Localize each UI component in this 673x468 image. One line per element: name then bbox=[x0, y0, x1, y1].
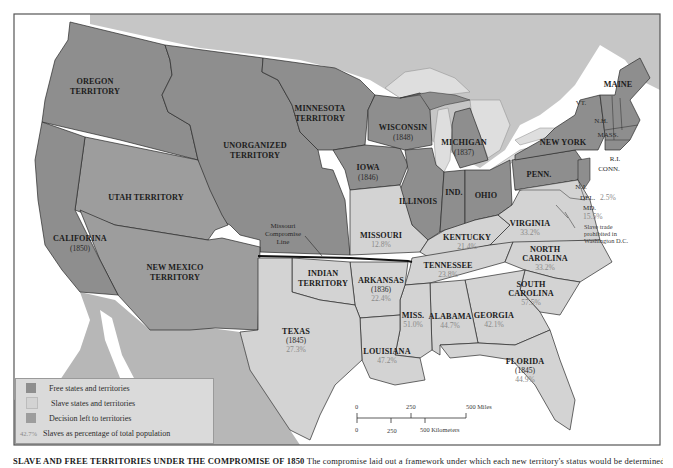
missouri-line-label: Missouri bbox=[271, 222, 296, 230]
svg-text:TERRITORY: TERRITORY bbox=[298, 279, 348, 288]
label-maryland: MD. bbox=[583, 204, 596, 212]
label-ohio: OHIO bbox=[475, 191, 498, 200]
svg-text:500 Miles: 500 Miles bbox=[466, 403, 492, 410]
svg-text:0: 0 bbox=[355, 426, 358, 433]
label-conn: CONN. bbox=[598, 165, 620, 173]
florida-state bbox=[440, 330, 575, 430]
svg-text:(1848): (1848) bbox=[393, 133, 414, 142]
label-ri: R.I. bbox=[610, 155, 621, 163]
label-penn: PENN. bbox=[527, 170, 552, 179]
label-oregon: OREGON bbox=[77, 77, 114, 86]
label-missouri: MISSOURI bbox=[360, 231, 402, 240]
legend-item-decision: Decision left to territories bbox=[16, 411, 131, 425]
label-iowa: IOWA bbox=[356, 163, 379, 172]
label-illinois: ILLINOIS bbox=[399, 197, 437, 206]
label-maine: MAINE bbox=[604, 80, 633, 89]
svg-text:Compromise: Compromise bbox=[265, 230, 301, 238]
svg-text:22.4%: 22.4% bbox=[371, 294, 391, 303]
label-louisiana: LOUISIANA bbox=[363, 347, 410, 356]
svg-text:(1845): (1845) bbox=[515, 366, 536, 375]
svg-text:prohibited in: prohibited in bbox=[584, 230, 618, 237]
label-mass: MASS. bbox=[598, 131, 619, 139]
svg-text:15.5%: 15.5% bbox=[583, 212, 603, 221]
label-georgia: GEORGIA bbox=[474, 311, 514, 320]
svg-text:(1846): (1846) bbox=[358, 173, 379, 182]
label-unorganized: UNORGANIZED bbox=[223, 141, 286, 150]
svg-text:33.2%: 33.2% bbox=[520, 228, 540, 237]
svg-text:0: 0 bbox=[355, 403, 358, 410]
label-michigan: MICHIGAN bbox=[441, 138, 486, 147]
label-indiana: IND. bbox=[445, 188, 462, 197]
label-minnesota: MINNESOTA bbox=[295, 104, 346, 113]
label-california: CALIFORINA bbox=[53, 234, 107, 243]
label-nh: N.H. bbox=[594, 117, 608, 125]
svg-text:47.2%: 47.2% bbox=[377, 356, 397, 365]
svg-text:33.2%: 33.2% bbox=[535, 263, 555, 272]
svg-text:Washington D.C.: Washington D.C. bbox=[584, 237, 628, 244]
scale-bar: 0 250 500 Miles 0 250 500 Kilometers bbox=[355, 403, 492, 434]
label-wisconsin: WISCONSIN bbox=[379, 123, 428, 132]
svg-text:21.4%: 21.4% bbox=[457, 242, 477, 251]
svg-text:(1850): (1850) bbox=[70, 244, 91, 253]
percent-sample: 42.7% bbox=[20, 430, 42, 437]
dc-note: Slave trade bbox=[584, 223, 613, 230]
decision-swatch bbox=[26, 413, 36, 423]
svg-text:12.8%: 12.8% bbox=[371, 240, 391, 249]
label-north-carolina: NORTH bbox=[530, 245, 561, 254]
label-vermont: VT. bbox=[576, 99, 587, 107]
svg-text:(1837): (1837) bbox=[454, 148, 475, 157]
svg-text:57.5%: 57.5% bbox=[521, 298, 541, 307]
svg-text:CAROLINA: CAROLINA bbox=[508, 289, 553, 298]
svg-text:500 Kilometers: 500 Kilometers bbox=[420, 426, 460, 433]
svg-text:42.1%: 42.1% bbox=[484, 320, 504, 329]
caption-title: SLAVE AND FREE TERRITORIES UNDER THE COM… bbox=[13, 456, 305, 466]
svg-text:CAROLINA: CAROLINA bbox=[522, 254, 567, 263]
slave-swatch bbox=[26, 397, 38, 409]
label-alabama: ALABAMA bbox=[428, 312, 471, 321]
map-caption: SLAVE AND FREE TERRITORIES UNDER THE COM… bbox=[13, 456, 663, 468]
svg-text:TERRITORY: TERRITORY bbox=[230, 151, 280, 160]
svg-text:2.5%: 2.5% bbox=[600, 193, 616, 202]
legend-item-percent: 42.7% Slaves as percentage of total popu… bbox=[16, 426, 170, 440]
label-indian: INDIAN bbox=[308, 269, 339, 278]
label-nj: N.J. bbox=[575, 183, 587, 191]
label-delaware: DEL. bbox=[580, 194, 596, 202]
label-new-york: NEW YORK bbox=[540, 138, 587, 147]
label-kentucky: KENTUCKY bbox=[443, 233, 491, 242]
svg-text:250: 250 bbox=[387, 427, 397, 434]
free-swatch bbox=[26, 383, 36, 393]
svg-text:23.8%: 23.8% bbox=[438, 270, 458, 279]
map-legend: Free states and territories Slave states… bbox=[15, 378, 214, 444]
label-virginia: VIRGINIA bbox=[510, 219, 550, 228]
label-new-mexico: NEW MEXICO bbox=[146, 263, 203, 272]
label-texas: TEXAS bbox=[282, 327, 310, 336]
svg-text:27.3%: 27.3% bbox=[286, 345, 306, 354]
legend-item-slave: Slave states and territories bbox=[16, 396, 135, 410]
svg-text:(1845): (1845) bbox=[286, 336, 307, 345]
svg-text:(1836): (1836) bbox=[371, 285, 392, 294]
indiana-state bbox=[440, 170, 465, 232]
svg-text:44.7%: 44.7% bbox=[440, 321, 460, 330]
svg-text:250: 250 bbox=[406, 403, 416, 410]
svg-text:TERRITORY: TERRITORY bbox=[150, 273, 200, 282]
label-tennessee: TENNESSEE bbox=[423, 261, 473, 270]
caption-text: The compromise laid out a framework unde… bbox=[305, 456, 663, 466]
label-mississippi: MISS. bbox=[402, 311, 425, 320]
svg-text:TERRITORY: TERRITORY bbox=[295, 114, 345, 123]
label-utah: UTAH TERRITORY bbox=[108, 193, 184, 202]
label-arkansas: ARKANSAS bbox=[358, 276, 404, 285]
svg-text:51.0%: 51.0% bbox=[403, 320, 423, 329]
svg-text:Line: Line bbox=[277, 238, 290, 246]
svg-text:44.9%: 44.9% bbox=[515, 375, 535, 384]
label-south-carolina: SOUTH bbox=[516, 280, 546, 289]
svg-text:TERRITORY: TERRITORY bbox=[70, 87, 120, 96]
label-florida: FLORIDA bbox=[506, 357, 544, 366]
legend-item-free: Free states and territories bbox=[16, 381, 130, 395]
